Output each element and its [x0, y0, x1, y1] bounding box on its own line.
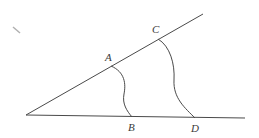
upper-ray [26, 14, 203, 115]
arc-AB [111, 66, 132, 117]
label-B: B [128, 121, 135, 133]
lower-ray [26, 115, 245, 118]
label-D: D [190, 122, 199, 134]
angle-diagram: A C B D [0, 0, 259, 138]
stray-mark [13, 27, 20, 33]
label-C: C [152, 23, 160, 35]
arc-CD [158, 39, 195, 118]
label-A: A [104, 51, 112, 63]
